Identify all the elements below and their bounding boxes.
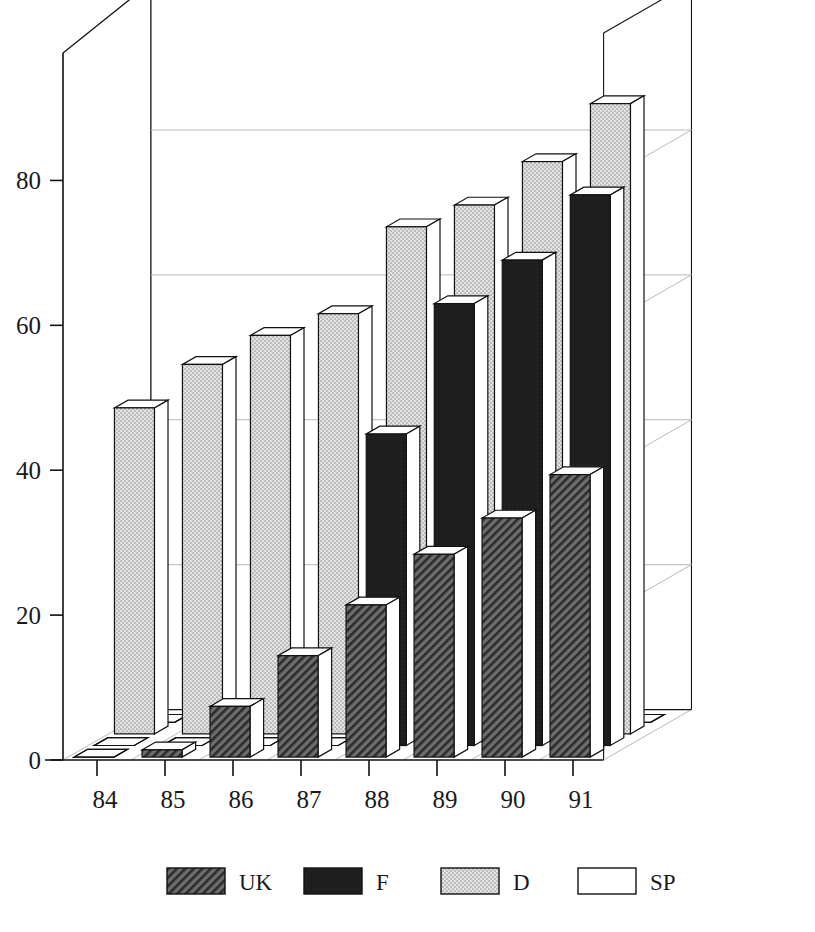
- legend-label: D: [513, 870, 530, 895]
- bar-3d: [346, 597, 400, 757]
- bar-front-face: [210, 706, 250, 757]
- x-axis-tick-label: 89: [433, 786, 458, 813]
- x-axis-tick-label: 85: [161, 786, 186, 813]
- bar-side-face: [222, 357, 236, 734]
- y-axis-tick-label: 40: [16, 457, 41, 484]
- bar-front-face: [182, 364, 222, 733]
- bar-side-face: [318, 648, 332, 757]
- x-axis-tick-label: 88: [365, 786, 390, 813]
- bar-3d: [94, 738, 148, 746]
- bar-3d: [414, 546, 468, 757]
- bar-front-face: [142, 750, 182, 757]
- y-axis-tick-label: 0: [29, 747, 42, 774]
- bar-side-face: [454, 546, 468, 757]
- bar-side-face: [250, 699, 264, 757]
- bar-side-face: [610, 187, 624, 745]
- bar-3d: [74, 749, 128, 757]
- legend-swatch: [304, 868, 362, 894]
- y-axis-tick-label: 60: [16, 312, 41, 339]
- bar-3d: [482, 510, 536, 757]
- legend-label: UK: [239, 870, 273, 895]
- bar-top-face: [74, 749, 128, 757]
- legend-swatch: [441, 868, 499, 894]
- bar-front-face: [414, 554, 454, 757]
- bar-front-face: [114, 408, 154, 734]
- x-axis-tick-label: 84: [93, 786, 119, 813]
- chart-bars: [74, 96, 664, 757]
- bar-3d: [142, 742, 196, 757]
- legend-item[interactable]: F: [304, 868, 389, 895]
- x-axis-tick-label: 91: [569, 786, 594, 813]
- x-axis-tick-label: 87: [297, 786, 322, 813]
- bar-side-face: [522, 510, 536, 757]
- bar-front-face: [346, 605, 386, 757]
- legend-label: F: [376, 870, 389, 895]
- bar-top-face: [94, 738, 148, 746]
- legend-item[interactable]: UK: [167, 868, 273, 895]
- legend-swatch: [167, 868, 225, 894]
- bar-chart-3d: 8060402008485868788899091 UKFDSP: [0, 0, 815, 932]
- x-axis-tick-label: 90: [501, 786, 526, 813]
- chart-canvas: 8060402008485868788899091 UKFDSP: [0, 0, 815, 932]
- bar-3d: [278, 648, 332, 757]
- bar-side-face: [386, 597, 400, 757]
- bar-3d: [210, 699, 264, 757]
- legend-item[interactable]: D: [441, 868, 530, 895]
- bar-front-face: [550, 475, 590, 758]
- x-axis-tick-label: 86: [229, 786, 254, 813]
- bar-side-face: [154, 400, 168, 734]
- bar-3d: [114, 400, 168, 734]
- legend-swatch: [578, 868, 636, 894]
- bar-side-face: [590, 467, 604, 757]
- legend-item[interactable]: SP: [578, 868, 676, 895]
- chart-legend: UKFDSP: [167, 868, 676, 895]
- y-axis-tick-label: 80: [16, 167, 41, 194]
- bar-side-face: [630, 96, 644, 734]
- legend-label: SP: [650, 870, 676, 895]
- bar-3d: [550, 467, 604, 757]
- bar-front-face: [482, 518, 522, 757]
- bar-3d: [182, 357, 236, 734]
- bar-front-face: [278, 656, 318, 757]
- y-axis-tick-label: 20: [16, 602, 41, 629]
